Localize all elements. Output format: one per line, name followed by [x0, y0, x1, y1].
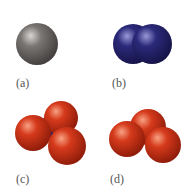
blue-atom-sphere — [132, 24, 172, 64]
panel-a-label: (a) — [16, 77, 29, 89]
panel-b-label: (b) — [112, 77, 126, 89]
red-atom-sphere — [48, 127, 86, 165]
red-atom-sphere — [15, 115, 51, 151]
molecule-figure — [0, 0, 194, 192]
gray-atom-sphere — [16, 23, 58, 65]
red-atom-sphere — [145, 127, 181, 163]
panel-d-ozone-model — [109, 109, 181, 163]
panel-c-label: (c) — [16, 173, 29, 185]
panel-b-blue-diatomic — [113, 24, 172, 64]
panel-c-nitrate-model — [15, 101, 86, 165]
panel-a-gray-atom — [16, 23, 58, 65]
panel-d-label: (d) — [110, 173, 124, 185]
red-atom-sphere — [109, 121, 145, 157]
